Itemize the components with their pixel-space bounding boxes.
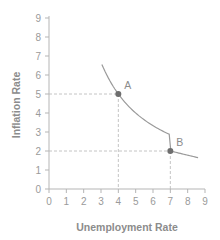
x-tick-label: 7 bbox=[168, 196, 174, 207]
y-axis-label: Inflation Rate bbox=[10, 72, 22, 139]
y-tick-label: 9 bbox=[35, 13, 41, 24]
dashed-guides bbox=[49, 94, 170, 189]
y-tick-label: 1 bbox=[35, 165, 41, 176]
x-tick-label: 0 bbox=[46, 196, 52, 207]
x-tick-label: 5 bbox=[133, 196, 139, 207]
y-tick-label: 6 bbox=[35, 70, 41, 81]
point-b-label: B bbox=[176, 136, 183, 148]
point-a-marker bbox=[115, 91, 121, 97]
y-tick-label: 3 bbox=[35, 127, 41, 138]
x-tick-label: 2 bbox=[81, 196, 87, 207]
x-axis-label: Unemployment Rate bbox=[76, 221, 178, 233]
point-b-marker bbox=[167, 148, 173, 154]
x-tick-label: 4 bbox=[116, 196, 122, 207]
data-points: AB bbox=[115, 79, 183, 154]
y-tick-label: 4 bbox=[35, 108, 41, 119]
y-tick-label: 2 bbox=[35, 146, 41, 157]
x-tick-label: 1 bbox=[64, 196, 70, 207]
point-a-label: A bbox=[124, 79, 131, 91]
y-tick-label: 8 bbox=[35, 32, 41, 43]
x-tick-label: 6 bbox=[150, 196, 156, 207]
phillips-curve-line bbox=[102, 64, 198, 157]
y-tick-label: 7 bbox=[35, 51, 41, 62]
y-tick-label: 5 bbox=[35, 89, 41, 100]
x-tick-label: 8 bbox=[185, 196, 191, 207]
phillips-curve-chart: 0123456789 0123456789 AB Inflation Rate … bbox=[0, 0, 220, 240]
y-tick-label: 0 bbox=[35, 184, 41, 195]
x-axis: 0123456789 bbox=[46, 189, 208, 207]
x-tick-label: 3 bbox=[98, 196, 104, 207]
y-axis: 0123456789 bbox=[35, 13, 49, 195]
x-tick-label: 9 bbox=[202, 196, 208, 207]
